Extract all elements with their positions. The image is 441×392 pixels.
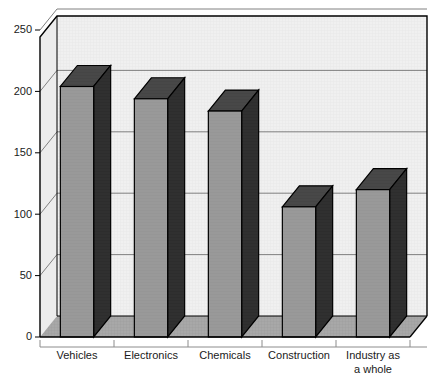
bar [60, 65, 110, 337]
bar-chart: 050100150200250 VehiclesElectronicsChemi… [0, 0, 441, 392]
y-tick-label: 0 [26, 330, 32, 342]
bar [356, 169, 406, 337]
x-tick-label: Electronics [124, 349, 178, 361]
y-tick-label: 200 [14, 85, 32, 97]
x-tick-label: Vehicles [57, 349, 98, 361]
bar [134, 78, 184, 337]
x-tick-label: Industry asa whole [346, 349, 400, 375]
bar [208, 90, 258, 337]
bar [282, 186, 332, 337]
y-axis: 050100150200250 [14, 23, 40, 342]
x-tick-label: Construction [268, 349, 330, 361]
x-tick-label: Chemicals [199, 349, 251, 361]
y-tick-label: 100 [14, 208, 32, 220]
x-axis: VehiclesElectronicsChemicalsConstruction… [40, 340, 427, 375]
y-tick-label: 250 [14, 23, 32, 35]
y-tick-label: 50 [20, 269, 32, 281]
y-tick-label: 150 [14, 146, 32, 158]
chart-canvas: 050100150200250 VehiclesElectronicsChemi… [0, 0, 441, 392]
